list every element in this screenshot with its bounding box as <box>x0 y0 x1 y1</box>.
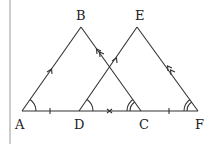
angle-a-arc <box>30 100 36 112</box>
angle-c-arc-inner <box>130 102 135 111</box>
label-b: B <box>76 8 86 23</box>
segment-bc <box>81 27 141 111</box>
similar-triangles-diagram: A D C F B E <box>0 0 212 144</box>
angle-f-arc-inner <box>187 102 192 111</box>
label-e: E <box>135 8 145 23</box>
label-f: F <box>195 117 204 132</box>
segment-de <box>79 27 137 111</box>
label-d: D <box>74 117 84 132</box>
angle-d-arc <box>87 100 93 112</box>
label-c: C <box>139 117 149 132</box>
label-a: A <box>14 117 25 132</box>
